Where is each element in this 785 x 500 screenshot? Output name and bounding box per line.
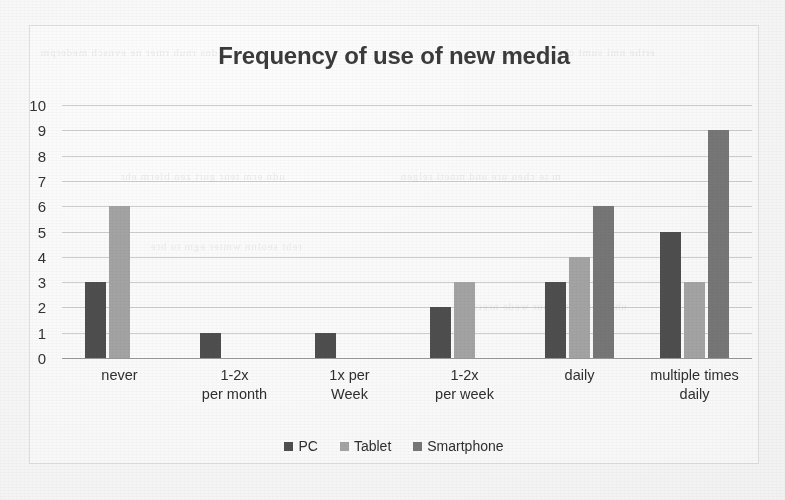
legend-label: Smartphone [427,438,503,454]
bar-pc [85,282,106,358]
x-axis-label-line: daily [637,385,752,404]
x-axis-label-line: daily [565,367,595,383]
bar-tablet [684,282,705,358]
bar-group [522,105,637,358]
x-axis-label: multiple timesdaily [637,366,752,404]
chart-container: Frequency of use of new media 1098765432… [30,26,758,463]
scanned-page: dns rnuh rmer ne evnsch mederpm erthe nm… [0,0,785,500]
bar-pc [200,333,221,358]
x-axis-label-line: 1x per [329,367,369,383]
y-axis-tick-label: 6 [6,198,46,215]
x-axis-label-line: never [101,367,137,383]
legend-label: Tablet [354,438,391,454]
bar-pc [660,232,681,359]
legend-item-tablet[interactable]: Tablet [340,438,391,454]
y-axis-tick-label: 5 [6,223,46,240]
bar-pc [315,333,336,358]
x-axis-label-line: per month [177,385,292,404]
bar-tablet [109,206,130,358]
chart-legend: PCTabletSmartphone [30,438,758,454]
bar-groups [62,105,752,358]
bar-group [177,105,292,358]
bar-pc [545,282,566,358]
legend-swatch-icon [413,442,422,451]
x-axis-label-line: 1-2x [220,367,248,383]
x-axis-label: 1-2xper month [177,366,292,404]
y-axis-tick-label: 1 [6,324,46,341]
y-axis-tick-label: 3 [6,274,46,291]
plot-area: 109876543210 [62,105,752,358]
y-axis-tick-label: 0 [6,350,46,367]
bar-group [637,105,752,358]
x-axis-label: 1-2xper week [407,366,522,404]
bar-group [407,105,522,358]
bar-tablet [454,282,475,358]
bar-pc [430,307,451,358]
chart-title: Frequency of use of new media [30,42,758,70]
x-axis-category-labels: never1-2xper month1x perWeek1-2xper week… [62,366,752,404]
x-axis-label: never [62,366,177,404]
y-axis-tick-label: 9 [6,122,46,139]
x-axis-label-line: per week [407,385,522,404]
y-axis-tick-label: 7 [6,172,46,189]
gridline [62,358,752,359]
y-axis-tick-label: 4 [6,248,46,265]
legend-swatch-icon [284,442,293,451]
legend-item-smartphone[interactable]: Smartphone [413,438,503,454]
y-axis-tick-label: 2 [6,299,46,316]
y-axis-tick-label: 8 [6,147,46,164]
x-axis-label-line: Week [292,385,407,404]
legend-label: PC [298,438,317,454]
x-axis-label-line: multiple times [650,367,739,383]
bar-group [62,105,177,358]
bar-smartphone [593,206,614,358]
bar-smartphone [708,130,729,358]
x-axis-label: 1x perWeek [292,366,407,404]
y-axis-tick-label: 10 [6,97,46,114]
legend-swatch-icon [340,442,349,451]
bar-group [292,105,407,358]
x-axis-label-line: 1-2x [450,367,478,383]
bar-tablet [569,257,590,358]
legend-item-pc[interactable]: PC [284,438,317,454]
x-axis-label: daily [522,366,637,404]
